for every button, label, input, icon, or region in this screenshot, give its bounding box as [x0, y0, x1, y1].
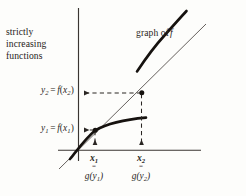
caption-strictly-increasing-functions: strictly increasing functions: [6, 26, 46, 62]
x1-subscript: 1: [95, 157, 98, 164]
y-axis-label-y2: y2=f(x2): [14, 85, 74, 96]
y1-arg-subscript: 1: [67, 127, 70, 134]
x-axis-label-x1: x1 = g(y1): [74, 152, 114, 182]
figure-canvas: strictly increasing functions graph off …: [0, 0, 246, 196]
curve-label-prefix: graph of: [136, 27, 169, 38]
graph-of-f-upper-curve: [137, 11, 187, 72]
x1-inverse-arg-subscript: 1: [97, 175, 100, 182]
x-axis-label-x2: x2 = g(y2): [119, 152, 163, 182]
x2-inverse-fn: g: [132, 171, 137, 181]
y1-equals: =: [49, 123, 57, 133]
x2-inverse-expression: g(y2): [119, 171, 163, 182]
x2-inverse-arg-subscript: 2: [144, 175, 147, 182]
x1-inverse-expression: g(y1): [74, 171, 114, 182]
y1-function: f: [57, 123, 60, 133]
x2-equals: =: [119, 163, 163, 170]
caption-line-2: increasing: [6, 38, 46, 49]
curve-label-function: f: [169, 27, 173, 38]
y2-equals: =: [49, 85, 57, 95]
y-axis-label-y1: y1=f(x1): [14, 123, 74, 134]
x2-subscript: 2: [142, 157, 145, 164]
x1-inverse-fn: g: [85, 171, 90, 181]
y1-subscript: 1: [45, 127, 48, 134]
y2-function: f: [57, 85, 60, 95]
point-x2-y2: [139, 90, 144, 95]
x1-equals: =: [74, 163, 114, 170]
y2-subscript: 2: [45, 89, 48, 96]
point-x1-y1: [93, 128, 98, 133]
caption-line-3: functions: [6, 50, 46, 61]
y2-arg-subscript: 2: [67, 89, 70, 96]
caption-line-1: strictly: [6, 26, 46, 37]
curve-label-graph-of-f: graph off: [136, 27, 173, 38]
